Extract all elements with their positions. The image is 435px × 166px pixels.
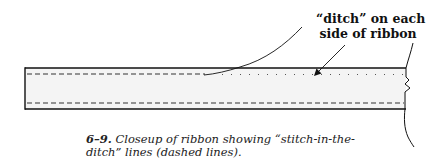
ditch-callout-label: “ditch” on each side of ribbon (316, 11, 420, 41)
callout-line-1: “ditch” on each (316, 11, 420, 26)
caption-line-2: ditch” lines (dashed lines). (86, 146, 355, 159)
figure-caption: 6–9. Closeup of ribbon showing “stitch-i… (86, 133, 355, 159)
callout-line-2: side of ribbon (316, 26, 420, 41)
caption-text-1: Closeup of ribbon showing “stitch-in-the… (112, 132, 355, 146)
figure-number: 6–9. (86, 132, 112, 146)
